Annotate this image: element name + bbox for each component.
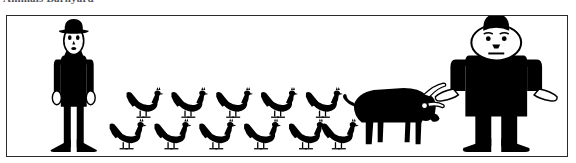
fat-man-mouth <box>488 52 504 54</box>
bull-leg-hind-far <box>378 119 384 143</box>
bull-eye <box>422 103 427 108</box>
fat-man-eye-left <box>486 36 491 41</box>
thin-man-torso <box>61 55 87 106</box>
thin-man-eye-right <box>76 35 80 40</box>
fat-man-torso <box>465 55 527 116</box>
bull-leg-front-far <box>405 119 411 143</box>
fat-man-face <box>471 25 521 60</box>
figure-caption: Animals Barnyard <box>3 0 94 4</box>
thin-man-mouth <box>71 47 76 50</box>
bull-leg-front-near <box>416 119 422 145</box>
fat-man-eye-right <box>502 36 507 41</box>
fat-man-arm-left <box>450 59 467 91</box>
figure-frame <box>6 15 568 157</box>
thin-man-eye-left <box>68 35 72 40</box>
fat-man-arm-right <box>525 59 542 91</box>
caption-strip: Animals Barnyard <box>0 0 576 7</box>
thin-man-hand-left <box>52 91 61 105</box>
thin-man-hand-right <box>86 91 95 105</box>
barnyard-scene <box>7 16 567 156</box>
